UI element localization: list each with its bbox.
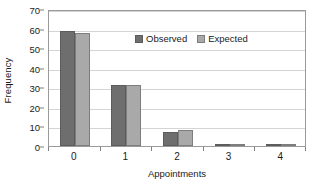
x-axis-tick-label: 1 (123, 151, 129, 162)
y-axis-tick-mark (40, 10, 44, 11)
plot-area (48, 10, 306, 147)
x-axis-tick-label: 2 (174, 151, 180, 162)
bar-chart-figure: Frequency 010203040506070 01234 Appointm… (0, 0, 320, 195)
bar-observed-0[interactable] (60, 31, 75, 146)
y-axis-tick-label: 60 (29, 24, 40, 35)
y-axis-tick-label: 50 (29, 44, 40, 55)
x-axis-title: Appointments (48, 168, 306, 179)
y-axis-tick-label: 40 (29, 63, 40, 74)
y-axis-tick-mark (40, 68, 44, 69)
y-axis-tick-mark (40, 29, 44, 30)
y-axis-tick-label: 30 (29, 83, 40, 94)
x-axis-tick-label: 4 (277, 151, 283, 162)
y-axis-tick-mark (40, 107, 44, 108)
legend-label: Observed (146, 33, 187, 44)
x-axis-tick-labels: 01234 (48, 151, 306, 167)
x-axis-title-label: Appointments (148, 168, 206, 179)
bar-expected-4[interactable] (281, 144, 296, 146)
legend-swatch-icon (197, 35, 205, 43)
bar-group (255, 11, 306, 146)
y-axis-tick-mark (40, 88, 44, 89)
y-axis-tick-mark (40, 147, 44, 148)
bar-expected-2[interactable] (178, 130, 193, 146)
legend-label: Expected (208, 33, 248, 44)
bar-expected-3[interactable] (230, 144, 245, 146)
bar-observed-1[interactable] (111, 85, 126, 146)
y-axis-tick-labels: 010203040506070 (16, 10, 44, 147)
legend-item-expected[interactable]: Expected (197, 33, 248, 44)
bar-group (49, 11, 101, 146)
y-axis-tick-label: 10 (29, 122, 40, 133)
y-axis-tick-mark (40, 49, 44, 50)
bar-observed-4[interactable] (266, 144, 281, 146)
y-axis-title: Frequency (0, 0, 16, 160)
y-axis-tick-mark (40, 127, 44, 128)
chart-legend: ObservedExpected (133, 32, 250, 45)
bar-expected-0[interactable] (75, 33, 90, 147)
x-axis-tick-label: 0 (71, 151, 77, 162)
bar-observed-2[interactable] (163, 132, 178, 146)
y-axis-tick-label: 70 (29, 5, 40, 16)
bar-observed-3[interactable] (215, 144, 230, 146)
bar-expected-1[interactable] (126, 85, 141, 146)
y-axis-tick-label: 20 (29, 102, 40, 113)
legend-item-observed[interactable]: Observed (135, 33, 187, 44)
y-axis-title-label: Frequency (3, 57, 14, 103)
legend-swatch-icon (135, 35, 143, 43)
x-axis-tick-label: 3 (226, 151, 232, 162)
